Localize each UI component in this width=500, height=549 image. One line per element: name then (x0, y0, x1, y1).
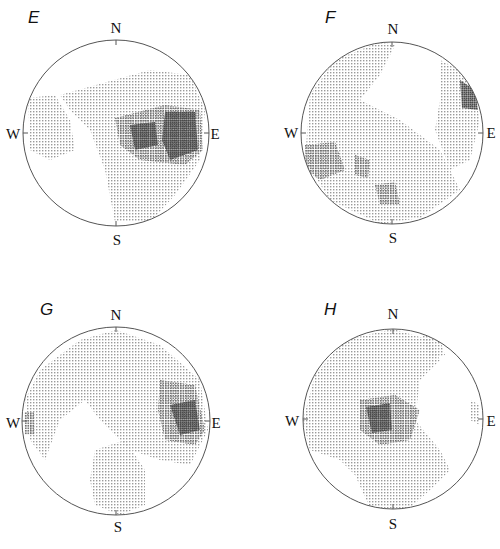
density-region-level-1 (470, 400, 480, 425)
cardinal-north: N (111, 308, 122, 323)
cardinal-west: W (6, 416, 20, 431)
panel-label-h: H (324, 300, 336, 320)
stereonet-canvas (0, 0, 500, 549)
cardinal-south: S (113, 233, 121, 248)
stereonet-h (303, 329, 483, 509)
panel-label-e: E (28, 8, 39, 28)
cardinal-west: W (6, 127, 20, 142)
panel-label-g: G (40, 300, 53, 320)
panel-label-f: F (325, 8, 335, 28)
stereonet-f (301, 42, 483, 224)
stereonet-g (22, 327, 210, 515)
cardinal-west: W (285, 414, 299, 429)
cardinal-west: W (284, 126, 298, 141)
cardinal-north: N (388, 22, 399, 37)
cardinal-south: S (114, 520, 122, 535)
density-region-level-3 (130, 122, 158, 150)
cardinal-north: N (111, 21, 122, 36)
cardinal-south: S (389, 231, 397, 246)
cardinal-east: E (210, 127, 219, 142)
stereonet-e (23, 40, 209, 226)
cardinal-north: N (388, 307, 399, 322)
cardinal-east: E (486, 126, 495, 141)
cardinal-east: E (486, 414, 495, 429)
density-region-level-2 (24, 412, 35, 435)
cardinal-east: E (211, 416, 220, 431)
cardinal-south: S (389, 517, 397, 532)
